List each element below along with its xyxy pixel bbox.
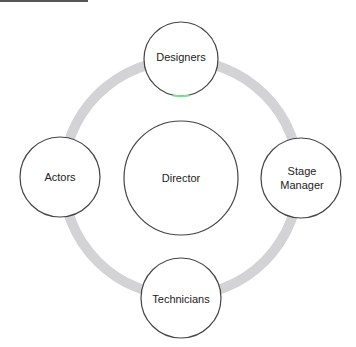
label-director: Director xyxy=(162,171,201,185)
highlight-mark xyxy=(173,96,189,97)
label-stage-manager: Stage Manager xyxy=(280,164,323,192)
label-stage-manager-line2: Manager xyxy=(280,178,323,192)
label-stage-manager-line1: Stage xyxy=(280,164,323,178)
label-technicians: Technicians xyxy=(152,292,209,306)
label-actors: Actors xyxy=(44,170,75,184)
label-designers: Designers xyxy=(156,50,206,64)
